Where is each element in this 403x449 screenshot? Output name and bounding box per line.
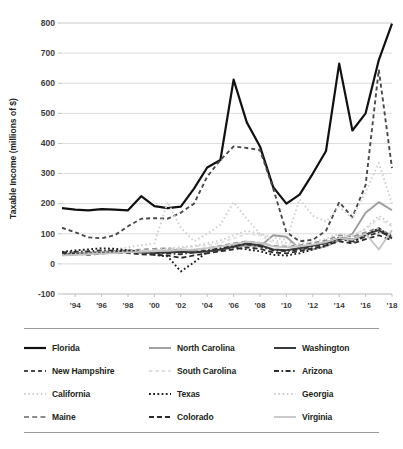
legend-item-california[interactable]: California xyxy=(24,382,149,405)
legend-swatch-icon xyxy=(149,366,171,376)
x-tick-label: '00 xyxy=(149,301,160,310)
y-axis-title: Taxable Income (millions of $) xyxy=(8,98,18,219)
series-line-new-hampshire xyxy=(62,70,392,242)
legend-swatch-icon xyxy=(274,412,296,422)
line-chart: 8007006005004003002001000-100 '94'96'98'… xyxy=(0,0,403,320)
x-tick-label: '98 xyxy=(123,301,134,310)
chart-screenshot: 8007006005004003002001000-100 '94'96'98'… xyxy=(0,0,403,449)
legend-label: Arizona xyxy=(302,366,332,376)
y-axis-ticks: 8007006005004003002001000-100 xyxy=(38,18,62,299)
legend-item-maine[interactable]: Maine xyxy=(24,405,149,428)
x-tick-label: '94 xyxy=(70,301,81,310)
legend-swatch-icon xyxy=(24,389,46,399)
x-tick-label: '02 xyxy=(175,301,186,310)
y-tick-label: 500 xyxy=(41,108,55,118)
legend-label: South Carolina xyxy=(177,366,236,376)
x-tick-label: '10 xyxy=(281,301,292,310)
legend-item-arizona[interactable]: Arizona xyxy=(274,359,382,382)
y-tick-label: 300 xyxy=(41,168,55,178)
data-series xyxy=(62,24,392,272)
x-tick-label: '08 xyxy=(255,301,266,310)
y-tick-label: 600 xyxy=(41,78,55,88)
legend-items: FloridaNorth CarolinaWashingtonNew Hamps… xyxy=(24,336,382,428)
series-line-florida xyxy=(62,24,392,211)
legend-label: North Carolina xyxy=(177,343,235,353)
legend-top-divider xyxy=(24,328,379,329)
legend-item-georgia[interactable]: Georgia xyxy=(274,382,382,405)
legend-swatch-icon xyxy=(149,389,171,399)
y-tick-label: 200 xyxy=(41,198,55,208)
y-tick-label: 400 xyxy=(41,138,55,148)
legend-label: Virginia xyxy=(302,412,332,422)
legend-item-virginia[interactable]: Virginia xyxy=(274,405,382,428)
x-tick-label: '18 xyxy=(387,301,398,310)
y-tick-label: 100 xyxy=(41,229,55,239)
legend-item-south-carolina[interactable]: South Carolina xyxy=(149,359,274,382)
chart-canvas: 8007006005004003002001000-100 '94'96'98'… xyxy=(0,0,403,320)
legend-item-new-hampshire[interactable]: New Hampshire xyxy=(24,359,149,382)
x-tick-label: '16 xyxy=(360,301,371,310)
x-axis-ticks: '94'96'98'00'02'04'06'08'10'12'14'16'18 xyxy=(62,294,398,310)
y-tick-label: 0 xyxy=(50,259,55,269)
legend-item-colorado[interactable]: Colorado xyxy=(149,405,274,428)
x-tick-label: '06 xyxy=(228,301,239,310)
x-tick-label: '12 xyxy=(307,301,318,310)
x-tick-label: '14 xyxy=(334,301,345,310)
y-tick-label: 800 xyxy=(41,18,55,28)
legend-swatch-icon xyxy=(149,343,171,353)
x-tick-label: '04 xyxy=(202,301,213,310)
legend-item-florida[interactable]: Florida xyxy=(24,336,149,359)
chart-legend: FloridaNorth CarolinaWashingtonNew Hamps… xyxy=(0,322,403,449)
x-tick-label: '96 xyxy=(96,301,107,310)
legend-label: California xyxy=(52,389,90,399)
legend-bottom-divider xyxy=(24,432,379,433)
legend-label: Washington xyxy=(302,343,349,353)
legend-label: Georgia xyxy=(302,389,333,399)
legend-item-north-carolina[interactable]: North Carolina xyxy=(149,336,274,359)
legend-swatch-icon xyxy=(24,366,46,376)
legend-swatch-icon xyxy=(24,412,46,422)
legend-swatch-icon xyxy=(274,343,296,353)
legend-swatch-icon xyxy=(149,412,171,422)
legend-item-washington[interactable]: Washington xyxy=(274,336,382,359)
legend-label: Texas xyxy=(177,389,200,399)
legend-swatch-icon xyxy=(274,366,296,376)
legend-label: Maine xyxy=(52,412,76,422)
legend-label: New Hampshire xyxy=(52,366,114,376)
legend-swatch-icon xyxy=(274,389,296,399)
y-tick-label: -100 xyxy=(38,289,55,299)
legend-label: Colorado xyxy=(177,412,214,422)
legend-swatch-icon xyxy=(24,343,46,353)
legend-item-texas[interactable]: Texas xyxy=(149,382,274,405)
legend-label: Florida xyxy=(52,343,80,353)
y-tick-label: 700 xyxy=(41,48,55,58)
